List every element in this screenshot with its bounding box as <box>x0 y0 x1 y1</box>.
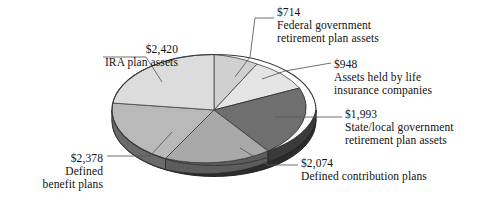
callout-text-ira-line1: IRA plan assets <box>105 56 178 69</box>
callout-amount-defined-contribution: $2,074 <box>301 157 427 170</box>
callout-text-federal-line1: Federal government <box>277 19 379 32</box>
callout-text-life-line1: Assets held by life <box>334 71 432 84</box>
callout-label-federal-government: $714 Federal government retirement plan … <box>277 6 379 46</box>
callout-text-defbenefit-line2: benefit plans <box>43 178 103 191</box>
callout-amount-federal: $714 <box>277 6 379 19</box>
pie-chart-figure: $714 Federal government retirement plan … <box>0 0 488 204</box>
callout-text-life-line2: insurance companies <box>334 84 432 97</box>
callout-amount-state-local: $1,993 <box>345 108 454 121</box>
callout-amount-ira: $2,420 <box>105 43 178 56</box>
callout-label-life-insurance: $948 Assets held by life insurance compa… <box>334 58 432 98</box>
callout-text-statelocal-line2: retirement plan assets <box>345 134 454 147</box>
callout-amount-life-insurance: $948 <box>334 58 432 71</box>
callout-text-statelocal-line1: State/local government <box>345 121 454 134</box>
callout-label-ira: $2,420 IRA plan assets <box>105 43 178 69</box>
callout-label-state-local-government: $1,993 State/local government retirement… <box>345 108 454 148</box>
callout-amount-defined-benefit: $2,378 <box>43 152 103 165</box>
callout-text-defbenefit-line1: Defined <box>43 165 103 178</box>
callout-label-defined-benefit: $2,378 Defined benefit plans <box>43 152 103 192</box>
callout-text-defcontrib-line1: Defined contribution plans <box>301 170 427 183</box>
callout-label-defined-contribution: $2,074 Defined contribution plans <box>301 157 427 183</box>
callout-text-federal-line2: retirement plan assets <box>277 32 379 45</box>
